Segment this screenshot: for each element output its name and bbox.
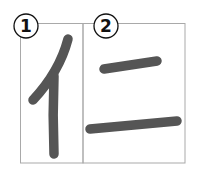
- upper-horizontal-stroke: [104, 61, 157, 69]
- step-badge-1: 1: [14, 14, 38, 38]
- character-strokes-step-2: [90, 61, 177, 129]
- stroke-order-diagram: 1 2: [0, 0, 198, 175]
- vertical-stroke: [53, 76, 54, 154]
- step-number-2: 2: [100, 16, 112, 36]
- step-badge-2: 2: [94, 14, 118, 38]
- lower-horizontal-stroke: [90, 121, 177, 129]
- character-strokes-step-1: [33, 39, 68, 154]
- frame-step-2: [83, 24, 185, 164]
- step-number-1: 1: [20, 16, 32, 36]
